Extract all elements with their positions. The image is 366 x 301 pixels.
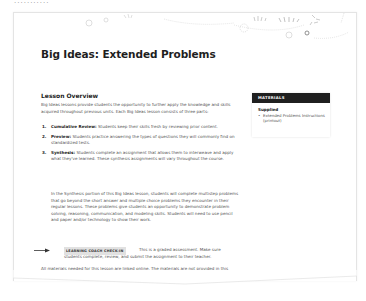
list-item-preview: 2. Preview: Students practice answering … [41, 134, 241, 147]
lesson-page: Big Ideas: Extended Problems Lesson Over… [13, 12, 357, 281]
list-item-text: Students complete an assignment that all… [51, 150, 233, 162]
list-item-text: Students practice answering the types of… [51, 134, 235, 146]
lesson-overview-heading: Lesson Overview [41, 92, 98, 99]
list-number: 1. [42, 124, 46, 131]
bullet-icon: • [258, 113, 260, 118]
materials-supplied-label: Supplied [258, 107, 330, 112]
materials-heading: MATERIALS [252, 93, 330, 103]
decorative-burst-pattern [14, 13, 356, 53]
list-number: 3. [42, 150, 46, 157]
torn-page-edge [13, 270, 357, 290]
page-title: Big Ideas: Extended Problems [41, 48, 216, 60]
checkin-text-line2: students complete, review, and submit th… [64, 254, 211, 261]
list-number: 2. [42, 134, 46, 141]
list-item-text: Students keep their skills fresh by revi… [97, 124, 218, 129]
list-item-label: Cumulative Review: [51, 124, 97, 129]
list-item-label: Synthesis: [51, 150, 75, 155]
materials-item: • Extended Problems Instructions (printo… [258, 113, 330, 123]
synthesis-detail-paragraph: In the Synthesis portion of this Big Ide… [51, 191, 241, 224]
list-item-synthesis: 3. Synthesis: Students complete an assig… [41, 150, 241, 163]
materials-box: MATERIALS Supplied • Extended Problems I… [252, 93, 330, 137]
materials-item-text: Extended Problems Instructions (printout… [263, 113, 325, 123]
list-item-label: Preview: [51, 134, 71, 139]
lesson-parts-list: 1. Cumulative Review: Students keep thei… [41, 124, 241, 166]
list-item-cumulative-review: 1. Cumulative Review: Students keep thei… [41, 124, 241, 131]
cut-off-header-text: ........... [14, 0, 49, 5]
arrow-right-icon [34, 248, 50, 253]
overview-intro-paragraph: Big Ideas lessons provide students the o… [41, 102, 241, 115]
